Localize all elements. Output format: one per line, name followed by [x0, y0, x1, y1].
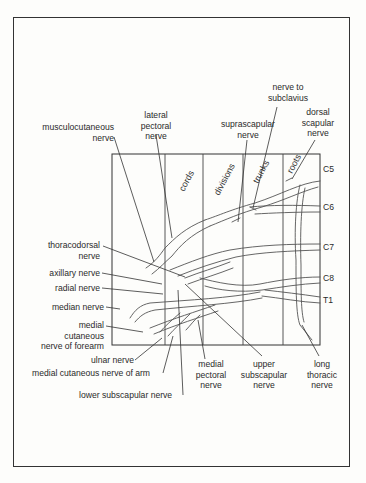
nerve-trunks: [130, 178, 320, 340]
root-c5: C5: [323, 164, 334, 175]
label-ulnar: ulnar nerve: [60, 355, 134, 366]
label-lateral-pectoral: lateralpectoralnerve: [132, 110, 180, 142]
root-c6: C6: [323, 202, 334, 213]
label-dorsal-scapular: dorsalscapularnerve: [295, 107, 341, 139]
label-suprascapular: suprascapularnerve: [208, 119, 288, 140]
region-roots: roots: [285, 152, 303, 175]
label-thoracodorsal: thoracodorsalnerve: [20, 240, 100, 261]
root-c7: C7: [323, 242, 334, 253]
region-cords: cords: [177, 168, 196, 193]
label-long-thoracic: longthoracicnerve: [300, 359, 344, 391]
root-c8: C8: [323, 273, 334, 284]
label-medial-cutaneous-forearm: medialcutaneousnerve of forearm: [20, 320, 104, 352]
label-medial-pectoral: medialpectoralnerve: [188, 359, 234, 391]
label-musculocutaneous: musculocutaneousnerve: [28, 122, 114, 143]
label-upper-subscapular: uppersubscapularnerve: [233, 359, 295, 391]
region-labels: cords divisions trunks roots: [177, 152, 303, 197]
label-axillary: axillary nerve: [20, 268, 100, 279]
region-divisions: divisions: [212, 161, 237, 197]
region-trunks: trunks: [251, 158, 272, 185]
label-nerve-to-subclavius: nerve tosubclavius: [260, 82, 316, 103]
label-median: median nerve: [20, 302, 104, 313]
label-lower-subscapular: lower subscapular nerve: [79, 390, 172, 401]
label-medial-cutaneous-arm: medial cutaneous nerve of arm: [32, 368, 150, 379]
label-radial: radial nerve: [20, 283, 100, 294]
root-t1: T1: [323, 295, 333, 306]
